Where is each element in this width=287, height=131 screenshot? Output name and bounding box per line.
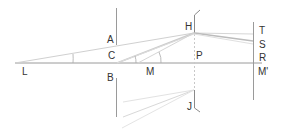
ray-C-H-2 <box>117 34 194 63</box>
element-H <box>195 10 201 33</box>
label-J: J <box>187 102 192 112</box>
label-M: M <box>146 67 154 77</box>
ray-L-H <box>15 33 194 63</box>
label-H: H <box>185 22 192 32</box>
label-T: T <box>259 26 265 36</box>
optics-diagram <box>0 0 287 131</box>
angle-arc-M <box>159 52 161 63</box>
label-R: R <box>259 53 266 63</box>
label-S: S <box>259 40 266 50</box>
angle-arc-C <box>135 56 136 63</box>
ray-H-S2 <box>194 34 253 44</box>
label-C: C <box>108 51 115 61</box>
label-P: P <box>196 51 203 61</box>
ray-J-2 <box>123 90 194 117</box>
label-A: A <box>107 35 114 45</box>
label-M-prime: M' <box>258 67 268 77</box>
label-L: L <box>22 67 28 77</box>
element-J <box>195 90 201 112</box>
label-B: B <box>107 73 114 83</box>
